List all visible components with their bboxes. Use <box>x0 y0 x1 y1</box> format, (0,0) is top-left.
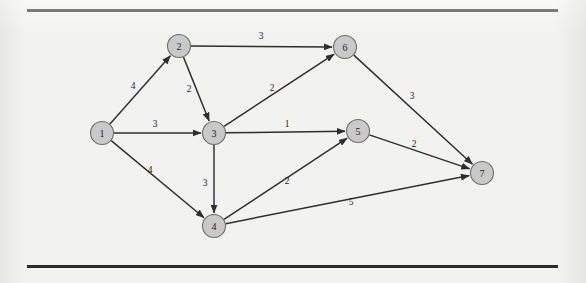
node-7: 7 <box>471 162 494 185</box>
figure-page: 434322132523 1234567 <box>0 0 586 283</box>
node-label-1: 1 <box>100 128 105 139</box>
top-rule <box>27 9 558 12</box>
edge-weight-3-to-6: 2 <box>270 83 275 93</box>
edge-labels-layer: 434322132523 <box>131 31 417 207</box>
edge-2-to-6 <box>191 46 332 47</box>
edge-1-to-2 <box>110 56 170 124</box>
edge-weight-4-to-5: 2 <box>285 176 290 186</box>
node-2: 2 <box>168 35 191 58</box>
node-6: 6 <box>334 36 357 59</box>
edge-5-to-7 <box>369 135 469 169</box>
nodes-layer: 1234567 <box>91 35 494 238</box>
node-label-3: 3 <box>212 128 217 139</box>
edge-weight-4-to-7: 5 <box>349 197 354 207</box>
bottom-rule <box>27 265 558 268</box>
edge-weight-5-to-7: 2 <box>412 139 417 149</box>
edge-weight-1-to-2: 4 <box>131 81 136 91</box>
edge-weight-3-to-4: 3 <box>203 178 208 188</box>
node-3: 3 <box>203 122 226 145</box>
edge-weight-1-to-3: 3 <box>153 119 158 129</box>
node-label-2: 2 <box>177 41 182 52</box>
edge-weight-2-to-6: 3 <box>259 31 264 41</box>
edges-layer <box>110 46 472 224</box>
edge-weight-3-to-5: 1 <box>285 119 290 129</box>
edge-4-to-7 <box>226 176 469 224</box>
node-label-6: 6 <box>343 42 348 53</box>
graph-canvas: 434322132523 1234567 <box>0 0 586 283</box>
node-label-4: 4 <box>212 221 217 232</box>
edge-3-to-5 <box>226 131 345 133</box>
node-label-5: 5 <box>356 126 361 137</box>
node-1: 1 <box>91 122 114 145</box>
node-5: 5 <box>347 120 370 143</box>
edge-1-to-4 <box>111 141 204 218</box>
edge-weight-6-to-7: 3 <box>410 91 415 101</box>
edge-weight-1-to-4: 4 <box>148 165 153 175</box>
node-label-7: 7 <box>480 168 485 179</box>
edge-3-to-6 <box>224 54 334 126</box>
node-4: 4 <box>203 215 226 238</box>
edge-weight-2-to-3: 2 <box>187 84 192 94</box>
